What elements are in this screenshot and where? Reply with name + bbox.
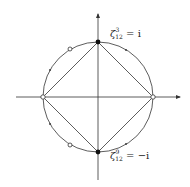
label-top-sup: 3 bbox=[115, 26, 119, 33]
label-bottom-sub: 12 bbox=[115, 155, 123, 162]
y-axis-arrow-icon bbox=[96, 13, 100, 18]
label-top-rhs: = i bbox=[126, 28, 141, 39]
x-axis-arrow-icon bbox=[176, 95, 181, 99]
point-left bbox=[41, 95, 45, 99]
tick-mark-icon bbox=[125, 143, 127, 145]
tick-mark-icon bbox=[49, 123, 51, 125]
label-bottom: ζ912 = −i bbox=[110, 151, 149, 161]
point-upper-left bbox=[68, 47, 72, 51]
point-top-i bbox=[96, 40, 101, 45]
label-top-sub: 12 bbox=[115, 33, 123, 40]
tick-mark-icon bbox=[125, 49, 127, 51]
label-bottom-sup: 9 bbox=[115, 148, 119, 155]
label-top: ζ312 = i bbox=[110, 29, 141, 39]
diagram-canvas bbox=[0, 0, 190, 187]
point-right bbox=[151, 95, 155, 99]
tick-mark-icon bbox=[49, 69, 51, 71]
point-bottom-minus-i bbox=[96, 150, 101, 155]
label-bottom-rhs: = −i bbox=[126, 150, 149, 161]
point-lower-left bbox=[68, 143, 72, 147]
